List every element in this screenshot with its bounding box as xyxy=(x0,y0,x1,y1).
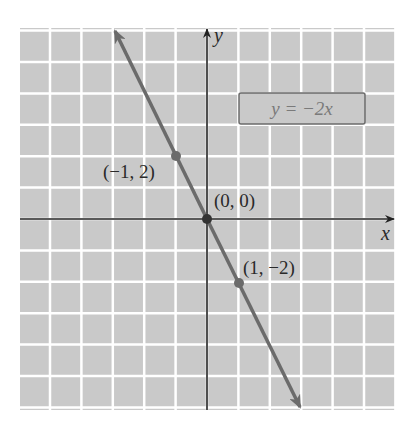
point-neg1-2 xyxy=(171,151,181,161)
coordinate-plane: x y (−1, 2) (0, 0) (1, −2) y = −2x xyxy=(0,0,408,437)
point-label-neg1-2: (−1, 2) xyxy=(103,161,155,183)
y-axis-label: y xyxy=(212,24,223,47)
point-origin xyxy=(202,214,212,224)
equation-legend-text: y = −2x xyxy=(269,98,333,119)
point-label-1-neg2: (1, −2) xyxy=(243,257,295,279)
point-1-neg2 xyxy=(234,278,244,288)
point-label-origin: (0, 0) xyxy=(214,190,255,212)
x-axis-label: x xyxy=(380,222,390,244)
